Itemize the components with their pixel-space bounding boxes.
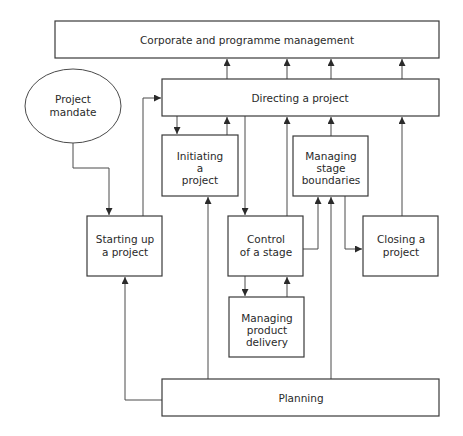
- node-msb-label-1: Managing: [305, 150, 357, 162]
- edge-mandate-starting: [73, 143, 109, 215]
- node-msb-label-2: stage: [316, 162, 345, 174]
- node-mpd-label-3: delivery: [246, 336, 288, 348]
- edge-planning-starting: [125, 277, 162, 400]
- prince2-process-diagram: Corporate and programme management Proje…: [0, 0, 463, 436]
- edge-control-msb: [303, 197, 318, 249]
- node-managing-product-delivery: Managing product delivery: [229, 297, 304, 357]
- node-mandate: Project mandate: [25, 69, 121, 143]
- node-mpd-label-1: Managing: [241, 312, 293, 324]
- node-closing: Closing a project: [363, 216, 438, 276]
- node-mandate-label-1: Project: [55, 93, 91, 105]
- node-starting-label-1: Starting up: [96, 233, 155, 245]
- node-initiating: Initiating a project: [162, 135, 238, 196]
- node-mpd-label-2: product: [247, 324, 287, 336]
- node-corporate-label: Corporate and programme management: [140, 34, 354, 46]
- node-directing-label: Directing a project: [251, 92, 348, 104]
- node-control-of-stage: Control of a stage: [228, 216, 303, 276]
- edge-msb-closing: [345, 196, 362, 249]
- node-mandate-label-2: mandate: [50, 106, 97, 118]
- node-msb-label-3: boundaries: [302, 174, 361, 186]
- node-control-label-2: of a stage: [240, 246, 292, 258]
- node-initiating-label-3: project: [182, 174, 218, 186]
- node-closing-label-1: Closing a: [377, 233, 425, 245]
- node-managing-stage-boundaries: Managing stage boundaries: [293, 136, 368, 196]
- node-corporate: Corporate and programme management: [55, 21, 439, 58]
- node-starting-up: Starting up a project: [87, 216, 162, 276]
- node-control-label-1: Control: [247, 233, 285, 245]
- node-closing-label-2: project: [383, 246, 419, 258]
- node-planning-label: Planning: [278, 392, 323, 404]
- edge-starting-directing: [143, 98, 161, 216]
- node-initiating-label-1: Initiating: [177, 150, 224, 162]
- node-planning: Planning: [162, 379, 439, 416]
- node-initiating-label-2: a: [197, 162, 203, 174]
- node-directing: Directing a project: [162, 79, 439, 116]
- node-starting-label-2: a project: [102, 246, 148, 258]
